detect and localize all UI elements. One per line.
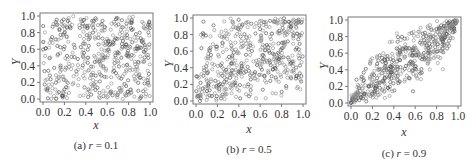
data-point	[54, 74, 57, 77]
data-point	[139, 55, 142, 58]
data-point	[147, 31, 150, 34]
y-tick-label: 0.6	[174, 45, 189, 57]
data-point	[97, 96, 100, 99]
x-tick-label: 0.2	[365, 110, 380, 122]
y-tick-label: 0.6	[21, 43, 36, 55]
data-point	[272, 42, 275, 45]
data-point	[146, 69, 149, 72]
data-point	[393, 89, 396, 92]
data-point	[56, 44, 59, 47]
data-point	[111, 34, 114, 37]
data-point	[134, 33, 137, 36]
data-point	[102, 89, 105, 92]
data-point	[133, 95, 136, 98]
data-point	[128, 16, 131, 19]
data-point	[269, 19, 272, 22]
plot-frame-b	[193, 15, 306, 104]
data-point	[270, 75, 273, 78]
data-point	[48, 74, 51, 77]
data-point	[255, 22, 258, 25]
data-point	[123, 36, 126, 39]
data-point	[79, 46, 82, 49]
x-axis-c: 0.00.20.40.60.81.0	[344, 106, 466, 122]
data-point	[42, 25, 45, 28]
data-point	[254, 97, 257, 100]
data-point	[419, 26, 422, 29]
data-point	[92, 65, 95, 68]
data-point	[412, 39, 415, 42]
data-point	[77, 78, 80, 81]
data-point	[62, 18, 65, 21]
data-point	[49, 78, 52, 81]
data-point	[126, 49, 129, 52]
data-point	[253, 26, 256, 29]
data-point	[82, 94, 85, 97]
x-tick-label: 0.8	[274, 108, 289, 120]
data-point	[148, 94, 151, 97]
y-axis-b: 0.00.20.40.60.81.0	[174, 12, 193, 107]
data-point	[98, 80, 101, 83]
y-tick-label: 0.8	[21, 27, 36, 39]
data-point	[235, 64, 238, 67]
data-point	[291, 54, 294, 57]
data-point	[104, 92, 107, 95]
data-point	[110, 82, 113, 85]
data-point	[277, 80, 280, 83]
data-point	[53, 66, 56, 69]
data-point	[248, 35, 251, 38]
data-point	[147, 46, 150, 49]
data-point	[212, 24, 215, 27]
data-point	[60, 20, 63, 23]
data-point	[428, 68, 431, 71]
data-point	[364, 67, 367, 70]
y-tick-label: 1.0	[329, 14, 344, 26]
x-tick-label: 0.2	[57, 106, 72, 118]
x-axis-title-c: x	[400, 125, 407, 139]
data-point	[279, 73, 282, 76]
data-point	[377, 74, 380, 77]
data-point	[301, 55, 304, 58]
data-point	[137, 60, 140, 63]
data-point	[118, 76, 121, 79]
x-tick-label: 0.6	[253, 108, 268, 120]
x-tick-label: 0.2	[210, 108, 225, 120]
y-tick-label: 0.2	[21, 76, 36, 88]
data-point	[226, 58, 229, 61]
data-point	[446, 47, 449, 50]
data-point	[206, 62, 209, 65]
data-point	[54, 88, 57, 91]
caption-b-prefix: (b)	[226, 143, 242, 155]
data-point	[382, 52, 385, 55]
data-point	[280, 94, 283, 97]
data-point	[125, 30, 128, 33]
data-point	[436, 62, 439, 65]
data-point	[134, 39, 137, 42]
caption-c-value: = 0.9	[401, 147, 426, 159]
data-point	[97, 52, 100, 55]
data-point	[250, 22, 253, 25]
data-point	[202, 20, 205, 23]
data-point	[225, 48, 228, 51]
data-point	[143, 44, 146, 47]
data-point	[121, 75, 124, 78]
x-axis-title-b: x	[245, 122, 252, 136]
data-point	[86, 61, 89, 64]
data-point	[129, 46, 132, 49]
data-point	[101, 37, 104, 40]
data-point	[209, 35, 212, 38]
data-point	[78, 35, 81, 38]
data-point	[65, 97, 68, 100]
data-point	[71, 64, 74, 67]
data-point	[292, 37, 295, 40]
points-a	[42, 15, 152, 101]
y-tick-label: 0.6	[329, 47, 344, 59]
caption-a-prefix: (a)	[74, 139, 89, 151]
data-point	[249, 53, 252, 56]
data-point	[113, 62, 116, 65]
data-point	[268, 26, 271, 29]
data-point	[396, 75, 399, 78]
data-point	[49, 91, 52, 94]
data-point	[396, 36, 399, 39]
data-point	[395, 60, 398, 63]
data-point	[276, 70, 279, 73]
